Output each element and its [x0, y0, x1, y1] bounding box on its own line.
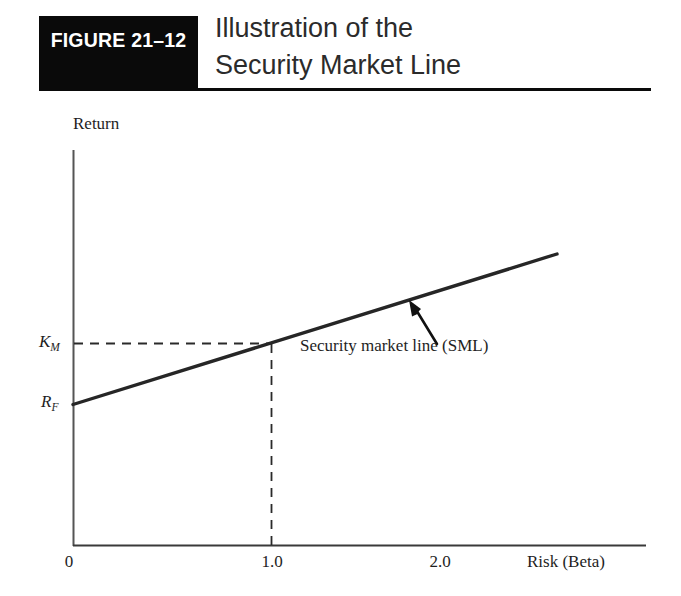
figure-number-label: FIGURE 21–12 — [39, 29, 198, 52]
sml-annotation-text: Security market line (SML) — [300, 336, 488, 356]
security-market-line — [73, 254, 557, 405]
x-axis-title: Risk (Beta) — [527, 552, 605, 572]
chart-plot-area: Return Risk (Beta) 0 1.0 2.0 KM RF Secur… — [0, 100, 681, 596]
km-subscript: M — [50, 341, 60, 353]
header-divider-rule — [39, 88, 651, 91]
x-tick-label-2: 2.0 — [414, 552, 466, 572]
figure-title: Illustration of the Security Market Line — [215, 10, 655, 84]
figure-header: FIGURE 21–12 Illustration of the Securit… — [0, 0, 681, 100]
x-tick-label-1: 1.0 — [246, 552, 298, 572]
risk-free-rate-label: RF — [41, 392, 58, 413]
y-axis-title: Return — [73, 114, 119, 134]
figure-number-badge: FIGURE 21–12 — [39, 16, 198, 89]
x-tick-label-0: 0 — [56, 552, 82, 572]
rf-base-letter: R — [41, 392, 51, 411]
market-return-label: KM — [39, 332, 60, 353]
rf-subscript: F — [51, 401, 58, 413]
km-base-letter: K — [39, 332, 50, 351]
